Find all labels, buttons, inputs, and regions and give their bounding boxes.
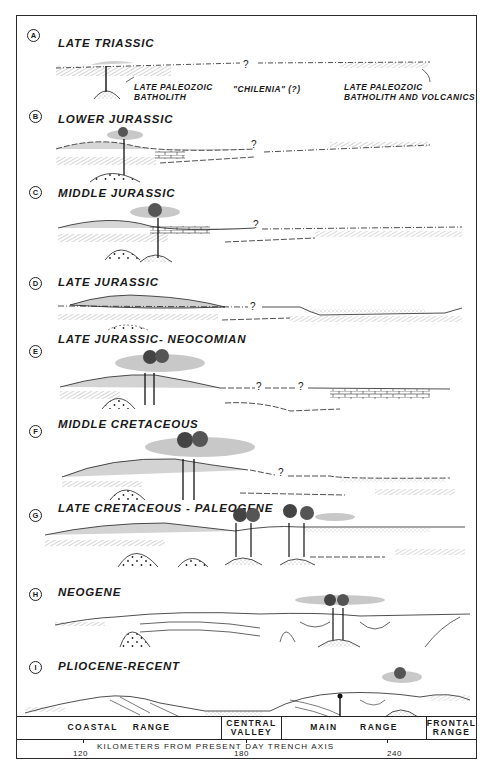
panel-d-cross-section (0, 290, 499, 335)
panel-d-title: LATE JURASSIC (58, 276, 159, 288)
annotation-line: BATHOLITH (134, 92, 213, 102)
axis-tick-label-240: 240 (387, 749, 402, 758)
question-mark-c: ? (253, 219, 259, 230)
axis-tick-120 (83, 739, 84, 743)
panel-b-cross-section (0, 125, 499, 185)
panel-h-cross-section (0, 592, 499, 652)
annotation-line: BATHOLITH AND VOLCANICS (344, 92, 475, 102)
question-mark-e1: ? (256, 381, 262, 392)
panel-c-title: MIDDLE JURASSIC (58, 187, 175, 199)
annotation-batholith-volcanics: LATE PALEOZOIC BATHOLITH AND VOLCANICS (344, 82, 475, 102)
panel-a-letter: A (27, 29, 40, 42)
question-mark-e2: ? (298, 381, 304, 392)
axis-tick-240 (387, 739, 388, 743)
panel-e-cross-section (0, 343, 499, 413)
panel-f-cross-section (0, 425, 499, 500)
region-row: COASTAL RANGE CENTRAL VALLEY MAIN RANGE … (17, 717, 476, 740)
annotation-chilenia: "CHILENIA" (?) (233, 84, 301, 94)
panel-g-cross-section (0, 495, 499, 575)
panel-i-cross-section (0, 655, 499, 717)
annotation-line: LATE PALEOZOIC (344, 82, 475, 92)
axis-tick-label-180: 180 (234, 749, 249, 758)
region-axis-table: COASTAL RANGE CENTRAL VALLEY MAIN RANGE … (17, 716, 476, 759)
region-frontal-range: FRONTAL RANGE (427, 717, 476, 739)
panel-b-title: LOWER JURASSIC (58, 113, 173, 125)
question-mark-a: ? (243, 59, 249, 70)
panel-c-letter: C (29, 186, 42, 199)
panel-b-letter: B (29, 110, 42, 123)
region-coastal-range: COASTAL RANGE (17, 717, 221, 739)
region-central-valley: CENTRAL VALLEY (222, 717, 281, 739)
annotation-late-paleozoic-batholith: LATE PALEOZOIC BATHOLITH (134, 82, 213, 102)
axis-title: KILOMETERS FROM PRESENT DAY TRENCH AXIS (97, 742, 334, 751)
question-mark-b: ? (251, 139, 257, 150)
question-mark-f: ? (278, 467, 284, 478)
question-mark-d: ? (250, 301, 256, 312)
axis-tick-label-120: 120 (73, 749, 88, 758)
panel-a-title: LATE TRIASSIC (58, 37, 154, 49)
panel-c-cross-section (0, 200, 499, 265)
region-main-range: MAIN RANGE (282, 717, 426, 739)
annotation-line: LATE PALEOZOIC (134, 82, 213, 92)
panel-d-letter: D (29, 277, 42, 290)
